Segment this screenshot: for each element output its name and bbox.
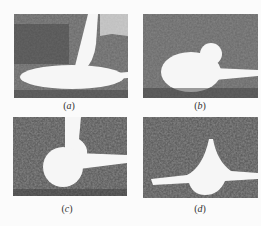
figure: (a) (b) (c) [0,0,261,226]
panel-a-image [14,14,128,98]
panel-d-label: (d) [180,203,220,214]
panel-b-label: (b) [180,100,220,111]
panel-a-label: (a) [49,100,89,111]
panel-b-image [143,14,258,98]
panel-c-label: (c) [47,203,87,214]
panel-c-image [13,117,127,196]
panel-d-image [143,117,258,198]
